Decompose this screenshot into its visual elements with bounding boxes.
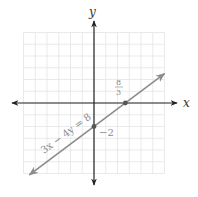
x-axis-label: x <box>183 96 190 110</box>
y-intercept-point <box>92 124 97 129</box>
equation-line <box>29 74 164 175</box>
y-axis-label: y <box>88 5 96 19</box>
line-series <box>29 74 164 175</box>
y-intercept-label: −2 <box>99 127 114 138</box>
x-intercept-numerator: 8 <box>116 78 121 87</box>
coordinate-plane: y x 8 3 −2 3x − 4y = 8 <box>0 0 198 197</box>
axes <box>12 21 177 185</box>
x-intercept-denominator: 3 <box>116 88 121 97</box>
x-intercept-point <box>123 101 128 106</box>
x-intercept-label: 8 3 <box>115 78 123 97</box>
